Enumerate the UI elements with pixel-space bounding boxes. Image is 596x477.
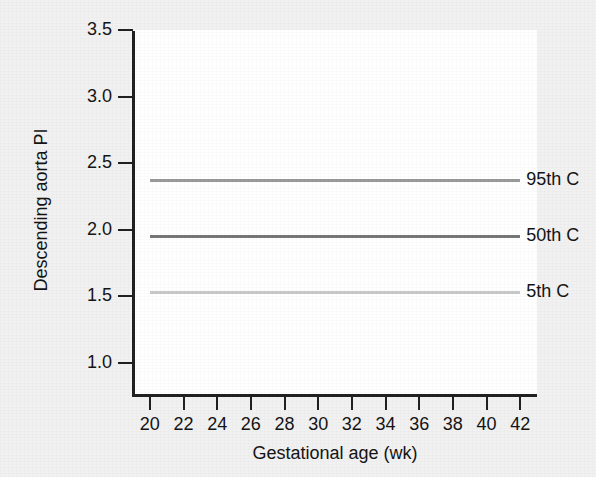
x-axis-tick xyxy=(452,396,454,410)
y-axis-tick-label-wrap: 1.5 xyxy=(56,286,112,304)
y-axis-tick xyxy=(118,229,133,231)
x-axis-title: Gestational age (wk) xyxy=(133,443,537,463)
x-axis-tick-label: 42 xyxy=(500,414,540,434)
plot-area xyxy=(133,30,537,396)
y-axis-tick xyxy=(118,295,133,297)
y-axis-line xyxy=(132,31,135,397)
chart-figure: 1.01.52.02.53.03.5 202224262830323436384… xyxy=(0,0,596,477)
y-axis-tick xyxy=(118,29,133,31)
x-axis-tick xyxy=(183,396,185,410)
x-axis-tick xyxy=(519,396,521,410)
x-axis-tick xyxy=(149,396,151,410)
series-line-5th-c xyxy=(150,291,520,294)
y-axis-tick-label: 2.5 xyxy=(60,153,112,171)
series-line-95th-c xyxy=(150,179,520,182)
y-axis-tick-label-wrap: 1.0 xyxy=(56,353,112,371)
x-axis-tick xyxy=(351,396,353,410)
series-line-50th-c xyxy=(150,235,520,238)
y-axis-tick-label: 1.0 xyxy=(60,353,112,371)
series-label-95th-c: 95th C xyxy=(526,169,579,189)
y-axis-tick-label: 2.0 xyxy=(60,220,112,238)
y-axis-tick-label-wrap: 2.0 xyxy=(56,220,112,238)
y-axis-tick xyxy=(118,162,133,164)
y-axis-tick-label-wrap: 3.0 xyxy=(56,87,112,105)
series-label-50th-c: 50th C xyxy=(526,225,579,245)
y-axis-tick-label: 1.5 xyxy=(60,286,112,304)
series-label-5th-c: 5th C xyxy=(526,281,569,301)
x-axis-tick xyxy=(385,396,387,410)
y-axis-tick xyxy=(118,362,133,364)
x-axis-tick xyxy=(284,396,286,410)
x-axis-tick xyxy=(486,396,488,410)
y-axis-tick-label-wrap: 3.5 xyxy=(56,20,112,38)
y-axis-tick-label-wrap: 2.5 xyxy=(56,153,112,171)
x-axis-tick xyxy=(317,396,319,410)
y-axis-title: Descending aorta PI xyxy=(31,27,51,393)
x-axis-tick xyxy=(418,396,420,410)
y-axis-tick-label: 3.0 xyxy=(60,87,112,105)
x-axis-tick xyxy=(216,396,218,410)
x-axis-tick xyxy=(250,396,252,410)
y-axis-tick-label: 3.5 xyxy=(60,20,112,38)
x-axis-line xyxy=(132,394,537,397)
y-axis-tick xyxy=(118,96,133,98)
